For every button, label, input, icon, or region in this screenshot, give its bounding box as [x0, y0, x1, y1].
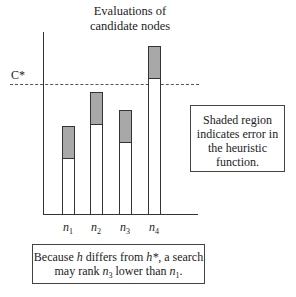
caption-line-1: Because h differs from h*, a search	[33, 250, 204, 264]
error-shade-n4	[149, 47, 160, 79]
error-shade-n1	[63, 127, 74, 159]
error-shade-n2	[91, 93, 102, 125]
node-label-n2: n2	[86, 220, 106, 236]
legend-box: Shaded region indicates error in the heu…	[190, 105, 285, 172]
node-label-n3: n3	[115, 220, 135, 236]
legend-line: the heuristic	[191, 141, 284, 155]
threshold-dashed-line	[10, 84, 199, 85]
legend-line: Shaded region	[191, 113, 284, 127]
bar-n3	[119, 110, 132, 214]
diagram-title: Evaluations of candidate nodes	[60, 4, 200, 34]
bar-n1	[62, 126, 75, 214]
caption-line-2: may rank n3 lower than n1.	[33, 264, 204, 283]
node-label-n1: n1	[58, 220, 78, 236]
y-axis	[43, 32, 44, 215]
threshold-label: C*	[11, 68, 25, 83]
legend-line: indicates error in	[191, 127, 284, 141]
title-line-2: candidate nodes	[60, 19, 200, 34]
bar-n2	[90, 92, 103, 214]
bar-n4	[148, 46, 161, 214]
x-axis	[43, 214, 198, 215]
error-shade-n3	[120, 111, 131, 143]
title-line-1: Evaluations of	[60, 4, 200, 19]
node-label-n4: n4	[144, 220, 164, 236]
legend-line: function.	[191, 155, 284, 169]
caption-box: Because h differs from h*, a search may …	[32, 244, 205, 284]
